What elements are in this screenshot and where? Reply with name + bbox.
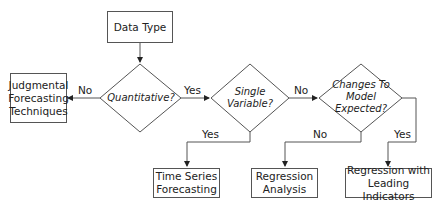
start-box-data-type: Data Type (107, 11, 173, 43)
decision-quantitative-label: Quantitative? (108, 90, 174, 106)
decision-single-variable-label: Single Variable? (225, 84, 275, 112)
edge-label-single-no: No (294, 84, 308, 96)
edge-label-quant-yes: Yes (184, 84, 201, 96)
decision-changes-label: Changes To Model Expected? (330, 76, 392, 118)
outcome-regression-label: Regression Analysis (252, 170, 317, 196)
outcome-regression-leading-box: Regression with Leading Indicators (345, 168, 432, 198)
outcome-regression-leading-label: Regression with Leading Indicators (346, 164, 431, 203)
edge-label-changes-no: No (313, 128, 327, 140)
edge-label-quant-no: No (78, 84, 92, 96)
outcome-time-series-box: Time Series Forecasting (153, 168, 220, 198)
outcome-judgmental-box: Judgmental Forecasting Techniques (10, 73, 67, 123)
edge-label-changes-yes: Yes (394, 128, 411, 140)
start-label: Data Type (114, 21, 167, 34)
edge-label-single-yes: Yes (202, 128, 219, 140)
outcome-time-series-label: Time Series Forecasting (154, 170, 219, 196)
outcome-regression-box: Regression Analysis (251, 168, 318, 198)
outcome-judgmental-label: Judgmental Forecasting Techniques (8, 79, 69, 118)
